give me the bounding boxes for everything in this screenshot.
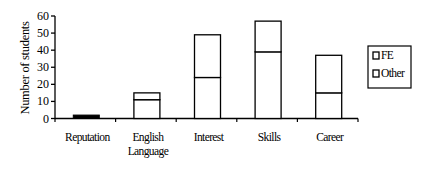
segment-other xyxy=(195,78,221,119)
y-tick-label: 20 xyxy=(37,77,49,91)
bar-skills xyxy=(255,21,281,118)
legend-label-other: Other xyxy=(381,67,405,79)
stacked-bar-chart: Number of students 0102030405060 Reputat… xyxy=(0,0,432,169)
y-tick-label: 30 xyxy=(37,60,49,74)
legend-swatch-other xyxy=(373,70,379,77)
bar-interest xyxy=(195,35,221,119)
y-axis: 0102030405060 xyxy=(37,9,55,126)
segment-fe xyxy=(195,35,221,78)
x-category-label: Skills xyxy=(258,131,282,143)
bar-reputation xyxy=(73,115,99,118)
y-tick-label: 60 xyxy=(37,9,49,23)
legend-swatch-fe xyxy=(373,52,379,59)
bars xyxy=(73,21,341,118)
y-tick-label: 40 xyxy=(37,43,49,57)
y-axis-title: Number of students xyxy=(18,21,32,115)
segment-fe xyxy=(255,21,281,52)
segment-other xyxy=(134,100,160,119)
x-category-label: Reputation xyxy=(65,131,110,144)
bar-english-language xyxy=(134,93,160,119)
segment-other xyxy=(316,93,342,119)
y-tick-label: 10 xyxy=(37,94,49,108)
bar-career xyxy=(316,55,342,118)
x-category-label: English xyxy=(132,131,164,144)
x-category-label: Language xyxy=(128,145,169,158)
segment-fe xyxy=(316,55,342,93)
x-category-label: Interest xyxy=(194,131,225,143)
legend: FE Other xyxy=(368,46,411,88)
segment-other xyxy=(255,52,281,119)
segment-fe xyxy=(134,93,160,100)
x-category-label: Career xyxy=(316,131,344,143)
y-tick-label: 0 xyxy=(43,112,49,126)
legend-label-fe: FE xyxy=(381,49,394,61)
y-tick-label: 50 xyxy=(37,26,49,40)
category-labels: ReputationEnglishLanguageInterestSkillsC… xyxy=(65,131,344,158)
